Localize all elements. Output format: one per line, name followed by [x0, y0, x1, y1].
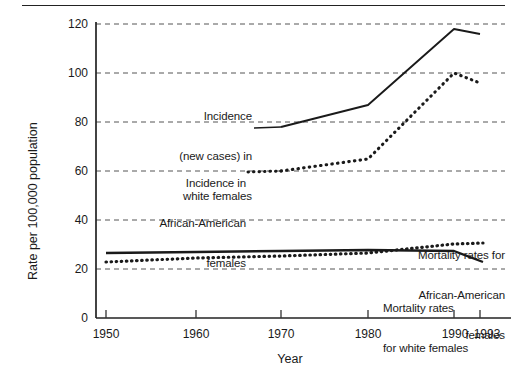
ytick-label-80: 80 [48, 115, 88, 129]
annotation-incidence-aa-line2: African-American [118, 217, 246, 230]
ytick-label-120: 120 [48, 17, 88, 31]
annotation-mortality-aa-line1: Mortality rates for [381, 249, 505, 262]
annotation-mortality-white-females: Mortality rates for white females [383, 275, 511, 382]
ytick-label-0: 0 [48, 311, 88, 325]
ytick-label-20: 20 [48, 262, 88, 276]
xtick-label-1960: 1960 [166, 327, 226, 341]
x-axis-label: Year [230, 352, 350, 366]
leader-incidence-african-american [248, 171, 281, 172]
ytick-label-60: 60 [48, 164, 88, 178]
xtick-label-1950: 1950 [76, 327, 136, 341]
ytick-label-100: 100 [48, 66, 88, 80]
annotation-incidence-aa-line3: females [118, 257, 246, 270]
leader-incidence-white [254, 127, 281, 128]
annotation-mortality-white-line1: Mortality rates [383, 302, 511, 315]
annotation-leaders [254, 127, 281, 128]
annotation-incidence-african-american-females: Incidence in African-American females [118, 150, 246, 297]
ytick-label-40: 40 [48, 213, 88, 227]
annotation-incidence-aa-line1: Incidence in [118, 177, 246, 190]
series-incidence-white-females [281, 29, 480, 127]
chart-figure: 120 100 80 60 40 20 0 1950 1960 1970 198… [0, 0, 517, 390]
annotation-incidence-white-line1: Incidence [140, 110, 252, 123]
y-axis-label: Rate per 100,000 population [26, 122, 40, 280]
xtick-label-1970: 1970 [251, 327, 311, 341]
annotation-mortality-white-line2: for white females [383, 342, 511, 355]
